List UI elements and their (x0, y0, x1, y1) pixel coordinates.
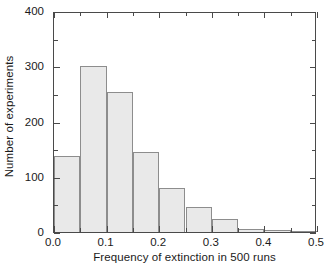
x-tick-label: 0.2 (138, 236, 178, 248)
x-tick-label: 0.4 (243, 236, 283, 248)
histogram-bar (80, 66, 106, 232)
x-tick-minor (186, 228, 187, 232)
bars-group (54, 12, 316, 232)
x-tick-minor (238, 228, 239, 232)
x-tick-label: 0.0 (33, 236, 73, 248)
histogram-bar (212, 219, 238, 232)
y-tick-major (54, 233, 60, 234)
plot-frame-right (315, 12, 316, 234)
histogram-bar (186, 207, 212, 232)
histogram-bar (159, 188, 185, 232)
plot-area (53, 12, 316, 233)
x-tick-major (264, 226, 265, 232)
histogram-bar (54, 156, 80, 232)
y-tick-minor (54, 95, 58, 96)
x-tick-minor (80, 228, 81, 232)
y-tick-minor (54, 150, 58, 151)
x-tick-minor (133, 228, 134, 232)
x-tick-minor (291, 228, 292, 232)
plot-frame-top (53, 12, 316, 13)
y-tick-label: 300 (4, 61, 44, 73)
x-tick-major (159, 226, 160, 232)
histogram-bar (107, 92, 133, 232)
x-tick-major (317, 12, 318, 18)
histogram-figure: Number of experiments 0100200300400 0.00… (0, 0, 332, 269)
y-tick-label: 200 (4, 117, 44, 129)
x-tick-label: 0.5 (296, 236, 332, 248)
y-tick-minor (54, 40, 58, 41)
x-tick-major (317, 226, 318, 232)
x-tick-label: 0.3 (191, 236, 231, 248)
x-tick-major (212, 226, 213, 232)
x-tick-major (107, 226, 108, 232)
histogram-bar (238, 229, 264, 232)
x-tick-label: 0.1 (86, 236, 126, 248)
histogram-bar (291, 231, 317, 232)
x-tick-major (54, 226, 55, 232)
y-tick-label: 100 (4, 172, 44, 184)
y-tick-major (54, 178, 60, 179)
y-tick-major (54, 67, 60, 68)
histogram-bar (133, 152, 159, 232)
histogram-bar (264, 230, 290, 232)
x-axis-label: Frequency of extinction in 500 runs (53, 250, 316, 264)
y-tick-minor (54, 205, 58, 206)
y-tick-label: 400 (4, 6, 44, 18)
x-axis-tick-labels: 0.00.10.20.30.40.5 (53, 236, 316, 250)
y-tick-major (54, 123, 60, 124)
